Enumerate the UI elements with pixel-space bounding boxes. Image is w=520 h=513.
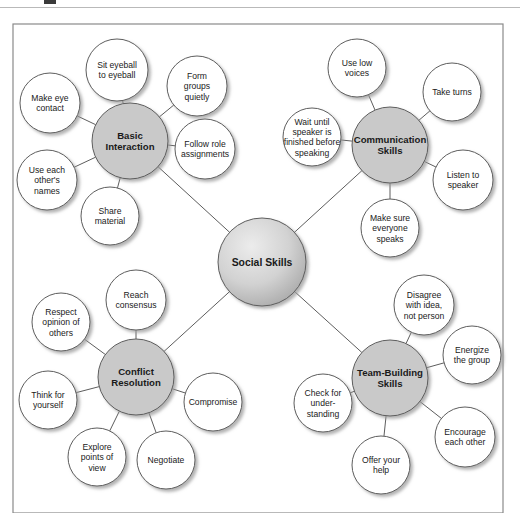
hub-node-team-building-skills[interactable]: Team-BuildingSkills bbox=[352, 340, 428, 416]
leaf-node-compromise[interactable]: Compromise bbox=[184, 373, 242, 431]
connector-conflict-resolution-to-explore-points-of-view bbox=[110, 411, 120, 431]
connector-center-to-team-building-skills bbox=[295, 292, 362, 353]
connector-team-building-skills-to-check-for-understanding bbox=[350, 391, 354, 393]
leaf-label-sit-eyeball-to-eyeball: Sit eyeballto eyeball bbox=[97, 60, 137, 80]
connector-center-to-conflict-resolution bbox=[164, 292, 229, 352]
leaf-label-form-groups-quietly: Formgroupsquietly bbox=[184, 71, 210, 102]
connector-conflict-resolution-to-negotiate bbox=[149, 413, 156, 433]
connector-team-building-skills-to-disagree-with-idea-not-person bbox=[406, 332, 411, 343]
leaf-node-form-groups-quietly[interactable]: Formgroupsquietly bbox=[167, 56, 227, 116]
connector-basic-interaction-to-share-material bbox=[117, 178, 120, 188]
leaf-node-make-sure-everyone-speaks[interactable]: Make sureeveryonespeaks bbox=[361, 199, 419, 257]
mind-map-canvas: Sit eyeballto eyeballFormgroupsquietlyFo… bbox=[0, 0, 520, 513]
leaf-label-make-eye-contact: Make eyecontact bbox=[31, 93, 68, 113]
leaf-label-disagree-with-idea-not-person: Disagreewith idea,not person bbox=[404, 290, 445, 321]
leaf-node-follow-role-assignments[interactable]: Follow roleassignments bbox=[175, 119, 235, 179]
hub-node-communication-skills[interactable]: CommunicationSkills bbox=[352, 107, 428, 183]
leaf-node-explore-points-of-view[interactable]: Explorepoints ofview bbox=[68, 428, 126, 486]
leaf-node-listen-to-speaker[interactable]: Listen tospeaker bbox=[433, 150, 493, 210]
leaf-label-take-turns: Take turns bbox=[432, 87, 472, 97]
connector-basic-interaction-to-form-groups-quietly bbox=[159, 105, 173, 117]
connector-conflict-resolution-to-think-for-yourself bbox=[76, 387, 99, 393]
leaf-node-offer-your-help[interactable]: Offer yourhelp bbox=[352, 436, 410, 494]
mind-map-diagram: Sit eyeballto eyeballFormgroupsquietlyFo… bbox=[0, 0, 520, 513]
leaf-label-energize-the-group: Energizethe group bbox=[454, 345, 491, 365]
leaf-label-follow-role-assignments: Follow roleassignments bbox=[181, 139, 229, 159]
center-label-social-skills: Social Skills bbox=[232, 257, 293, 268]
hub-node-conflict-resolution[interactable]: ConflictResolution bbox=[98, 339, 174, 415]
connector-communication-skills-to-wait-until-speaker-finished bbox=[341, 140, 352, 141]
leaf-node-share-material[interactable]: Sharematerial bbox=[81, 187, 139, 245]
leaf-node-encourage-each-other[interactable]: Encourageeach other bbox=[435, 407, 495, 467]
leaf-label-use-low-voices: Use lowvoices bbox=[342, 58, 373, 78]
leaf-label-negotiate: Negotiate bbox=[148, 455, 185, 465]
center-node-social-skills[interactable]: Social Skills bbox=[218, 218, 306, 306]
leaf-label-share-material: Sharematerial bbox=[95, 206, 126, 226]
connector-basic-interaction-to-make-eye-contact bbox=[77, 116, 96, 125]
leaf-label-think-for-yourself: Think foryourself bbox=[31, 390, 65, 410]
connector-center-to-communication-skills bbox=[294, 171, 361, 233]
leaf-node-wait-until-speaker-finished[interactable]: Wait untilspeaker isfinished beforespeak… bbox=[283, 108, 341, 166]
leaf-label-encourage-each-other: Encourageeach other bbox=[444, 427, 486, 447]
hub-label-conflict-resolution: ConflictResolution bbox=[111, 366, 161, 388]
leaf-node-think-for-yourself[interactable]: Think foryourself bbox=[19, 371, 77, 429]
nodes-layer: Sit eyeballto eyeballFormgroupsquietlyFo… bbox=[17, 39, 501, 494]
leaf-node-take-turns[interactable]: Take turns bbox=[423, 63, 481, 121]
leaf-node-check-for-understanding[interactable]: Check forunder-standing bbox=[294, 374, 352, 432]
leaf-node-sit-eyeball-to-eyeball[interactable]: Sit eyeballto eyeball bbox=[86, 39, 148, 101]
connector-communication-skills-to-take-turns bbox=[419, 111, 430, 120]
leaf-node-respect-opinion-of-others[interactable]: Respectopinion ofothers bbox=[32, 293, 90, 351]
leaf-node-disagree-with-idea-not-person[interactable]: Disagreewith idea,not person bbox=[394, 275, 454, 335]
hub-node-basic-interaction[interactable]: BasicInteraction bbox=[92, 103, 168, 179]
leaf-node-reach-consensus[interactable]: Reachconsensus bbox=[106, 270, 166, 330]
leaf-node-make-eye-contact[interactable]: Make eyecontact bbox=[20, 73, 80, 133]
leaf-label-compromise: Compromise bbox=[189, 397, 238, 407]
connector-conflict-resolution-to-respect-opinion-of-others bbox=[84, 339, 105, 354]
leaf-label-listen-to-speaker: Listen tospeaker bbox=[447, 170, 480, 190]
connector-team-building-skills-to-encourage-each-other bbox=[420, 401, 442, 418]
leaf-node-negotiate[interactable]: Negotiate bbox=[137, 431, 195, 489]
connector-conflict-resolution-to-compromise bbox=[172, 389, 185, 393]
leaf-node-energize-the-group[interactable]: Energizethe group bbox=[443, 326, 501, 384]
leaf-node-use-each-others-names[interactable]: Use eachother'snames bbox=[17, 150, 77, 210]
connector-communication-skills-to-listen-to-speaker bbox=[424, 161, 436, 167]
connector-basic-interaction-to-use-each-others-names bbox=[74, 157, 95, 167]
connector-team-building-skills-to-offer-your-help bbox=[384, 416, 386, 436]
leaf-node-use-low-voices[interactable]: Use lowvoices bbox=[328, 39, 386, 97]
connector-communication-skills-to-use-low-voices bbox=[368, 95, 375, 110]
connector-basic-interaction-to-follow-role-assignments bbox=[168, 145, 175, 146]
connector-team-building-skills-to-energize-the-group bbox=[427, 363, 444, 368]
